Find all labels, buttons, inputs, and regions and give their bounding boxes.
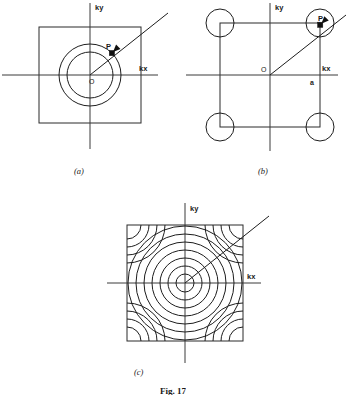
panel-a-axes bbox=[2, 3, 158, 149]
panel-b-ky-label: ky bbox=[275, 3, 284, 12]
panel-a: ky kx O P bbox=[0, 0, 180, 150]
panel-b-caption: (b) bbox=[258, 166, 268, 176]
figure-caption: Fig. 17 bbox=[160, 386, 186, 395]
panel-a-point-label: P bbox=[106, 42, 111, 51]
panel-c-axes bbox=[107, 203, 261, 363]
panel-c: ky kx bbox=[85, 198, 285, 368]
panel-a-kx-label: kx bbox=[139, 64, 148, 73]
panel-b-kx-label: kx bbox=[322, 64, 331, 73]
panel-b-k-vector bbox=[270, 15, 346, 75]
figure-root: ky kx O P (a) ky kx O P a (b) bbox=[0, 0, 361, 395]
panel-a-origin-label: O bbox=[89, 78, 95, 85]
panel-a-point-p bbox=[109, 50, 114, 55]
panel-b-point-label: P bbox=[318, 14, 323, 23]
panel-c-kx-label: kx bbox=[247, 272, 256, 281]
panel-a-k-vector bbox=[90, 13, 168, 75]
panel-c-k-vector bbox=[185, 216, 269, 283]
panel-b-lattice-constant-label: a bbox=[310, 79, 314, 86]
panel-c-caption: (c) bbox=[134, 367, 143, 377]
panel-b-origin-label: O bbox=[261, 66, 267, 73]
panel-a-caption: (a) bbox=[74, 166, 84, 176]
panel-c-ky-label: ky bbox=[190, 204, 199, 213]
panel-b-axes bbox=[186, 3, 338, 151]
panel-b: ky kx O P a bbox=[180, 0, 361, 150]
panel-a-ky-label: ky bbox=[95, 3, 104, 12]
